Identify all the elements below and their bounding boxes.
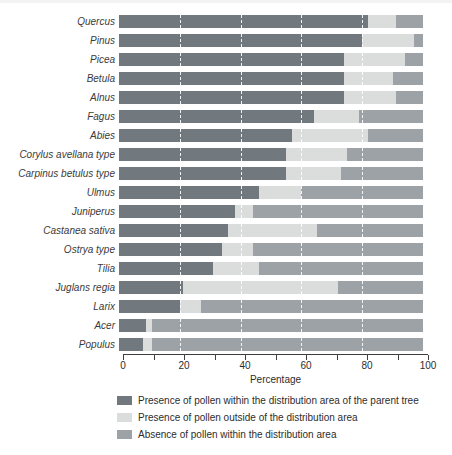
bar-segment bbox=[253, 205, 423, 218]
gridline bbox=[241, 262, 242, 275]
bar-segment bbox=[119, 129, 292, 142]
category-label: Fagus bbox=[0, 111, 119, 122]
bar-row: Juglans regia bbox=[0, 278, 452, 297]
gridline bbox=[241, 186, 242, 199]
gridline bbox=[180, 34, 181, 47]
bar-row: Quercus bbox=[0, 12, 452, 31]
bar-segment bbox=[119, 148, 286, 161]
category-label: Populus bbox=[0, 339, 119, 350]
stacked-bar bbox=[119, 53, 423, 66]
bar-row: Larix bbox=[0, 297, 452, 316]
stacked-bar bbox=[119, 224, 423, 237]
category-label: Abies bbox=[0, 130, 119, 141]
gridline bbox=[180, 338, 181, 351]
legend-item: Absence of pollen within the distributio… bbox=[117, 428, 452, 441]
stacked-bar bbox=[119, 186, 423, 199]
gridline bbox=[241, 338, 242, 351]
gridline bbox=[362, 243, 363, 256]
bar-segment bbox=[359, 110, 423, 123]
top-artifact-band bbox=[0, 0, 452, 3]
bar-segment bbox=[259, 186, 302, 199]
bar-segment bbox=[341, 167, 423, 180]
gridline bbox=[180, 53, 181, 66]
bar-segment bbox=[119, 338, 143, 351]
legend-item-label: Presence of pollen within the distributi… bbox=[138, 395, 419, 406]
bar-row: Corylus avellana type bbox=[0, 145, 452, 164]
axis-tick-label: 0 bbox=[120, 360, 126, 371]
axis-tick bbox=[215, 355, 216, 360]
bar-segment bbox=[228, 224, 316, 237]
bar-segment bbox=[253, 243, 423, 256]
gridline bbox=[301, 262, 302, 275]
bar-segment bbox=[119, 300, 180, 313]
bar-segment bbox=[201, 300, 423, 313]
stacked-bar bbox=[119, 110, 423, 123]
gridline bbox=[180, 129, 181, 142]
category-label: Carpinus betulus type bbox=[0, 168, 119, 179]
gridline bbox=[301, 72, 302, 85]
bar-segment bbox=[286, 167, 341, 180]
bar-segment bbox=[414, 34, 423, 47]
gridline bbox=[241, 148, 242, 161]
bar-segment bbox=[119, 15, 368, 28]
gridline bbox=[362, 34, 363, 47]
category-label: Tilia bbox=[0, 263, 119, 274]
gridline bbox=[362, 129, 363, 142]
stacked-bar bbox=[119, 15, 423, 28]
chart-container: QuercusPinusPiceaBetulaAlnusFagusAbiesCo… bbox=[0, 0, 452, 455]
category-label: Ulmus bbox=[0, 187, 119, 198]
stacked-bar bbox=[119, 148, 423, 161]
gridline bbox=[180, 167, 181, 180]
category-label: Castanea sativa bbox=[0, 225, 119, 236]
bar-segment bbox=[396, 91, 423, 104]
stacked-bar bbox=[119, 300, 423, 313]
bar-segment bbox=[119, 186, 259, 199]
bar-segment bbox=[180, 300, 201, 313]
gridline bbox=[301, 34, 302, 47]
bar-row: Picea bbox=[0, 50, 452, 69]
bar-row: Juniperus bbox=[0, 202, 452, 221]
bar-row: Carpinus betulus type bbox=[0, 164, 452, 183]
stacked-bar bbox=[119, 262, 423, 275]
gridline bbox=[362, 281, 363, 294]
gridline bbox=[362, 262, 363, 275]
bar-segment bbox=[344, 72, 393, 85]
gridline bbox=[301, 167, 302, 180]
bar-segment bbox=[347, 148, 423, 161]
gridline bbox=[362, 319, 363, 332]
bar-segment bbox=[119, 110, 314, 123]
gridline bbox=[241, 129, 242, 142]
gridline bbox=[301, 15, 302, 28]
gridline bbox=[241, 319, 242, 332]
gridline bbox=[301, 319, 302, 332]
bar-segment bbox=[213, 262, 259, 275]
gridline bbox=[180, 148, 181, 161]
bar-row: Populus bbox=[0, 335, 452, 354]
bar-row: Ulmus bbox=[0, 183, 452, 202]
gridline bbox=[362, 338, 363, 351]
bar-segment bbox=[183, 281, 338, 294]
stacked-bar bbox=[119, 205, 423, 218]
axis-tick-label: 100 bbox=[420, 360, 437, 371]
gridline bbox=[362, 167, 363, 180]
bar-row: Acer bbox=[0, 316, 452, 335]
category-label: Picea bbox=[0, 54, 119, 65]
gridline bbox=[241, 72, 242, 85]
category-label: Juglans regia bbox=[0, 282, 119, 293]
bar-segment bbox=[405, 53, 423, 66]
axis-tick-label: 80 bbox=[361, 360, 372, 371]
gridline bbox=[180, 110, 181, 123]
axis-tick-label: 40 bbox=[239, 360, 250, 371]
bar-segment bbox=[119, 91, 344, 104]
gridline bbox=[180, 15, 181, 28]
x-axis: 020406080100 bbox=[123, 354, 428, 372]
stacked-bar bbox=[119, 129, 423, 142]
gridline bbox=[301, 148, 302, 161]
bar-row: Pinus bbox=[0, 31, 452, 50]
bar-segment bbox=[119, 262, 213, 275]
bar-segment bbox=[396, 15, 423, 28]
axis-tick bbox=[398, 355, 399, 360]
bar-segment bbox=[119, 53, 344, 66]
gridline bbox=[301, 129, 302, 142]
stacked-bar bbox=[119, 319, 423, 332]
